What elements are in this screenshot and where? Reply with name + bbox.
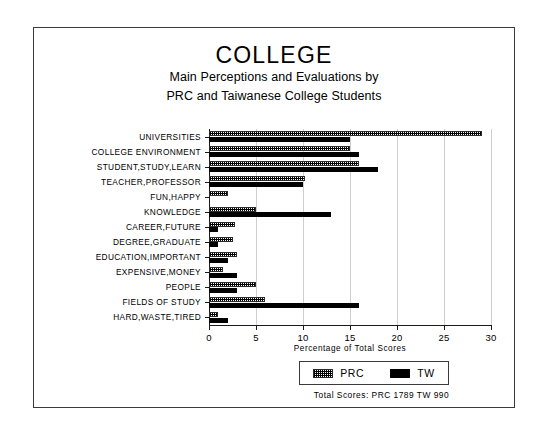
category-label: KNOWLEDGE bbox=[144, 208, 201, 216]
x-axis-tick-label: 15 bbox=[344, 332, 355, 343]
gridline bbox=[491, 129, 492, 325]
bar-tw bbox=[209, 288, 237, 293]
bar-tw bbox=[209, 137, 350, 142]
legend-entry-tw: TW bbox=[390, 367, 435, 379]
category-label: STUDENT,STUDY,LEARN bbox=[97, 163, 201, 171]
x-axis-tick-label: 20 bbox=[391, 332, 402, 343]
plot-area: UNIVERSITIESCOLLEGE ENVIRONMENTSTUDENT,S… bbox=[209, 129, 491, 325]
category-label: FIELDS OF STUDY bbox=[122, 298, 201, 306]
category-label: CAREER,FUTURE bbox=[126, 223, 201, 231]
figure-frame: COLLEGE Main Perceptions and Evaluations… bbox=[33, 27, 515, 408]
category-label: EXPENSIVE,MONEY bbox=[116, 268, 201, 276]
x-axis-tick-label: 25 bbox=[438, 332, 449, 343]
x-axis-tick bbox=[303, 325, 304, 330]
x-axis-tick-label: 5 bbox=[253, 332, 259, 343]
category-label: PEOPLE bbox=[166, 283, 201, 291]
bar-row: DEGREE,GRADUATE bbox=[209, 235, 491, 250]
x-axis-tick bbox=[397, 325, 398, 330]
legend-entry-prc: PRC bbox=[313, 367, 364, 379]
category-label: FUN,HAPPY bbox=[150, 193, 201, 201]
bar-prc bbox=[209, 207, 256, 212]
bar-row: CAREER,FUTURE bbox=[209, 219, 491, 234]
bar-prc bbox=[209, 237, 233, 242]
bar-row: FIELDS OF STUDY bbox=[209, 295, 491, 310]
bar-row: COLLEGE ENVIRONMENT bbox=[209, 144, 491, 159]
bar-prc bbox=[209, 176, 305, 181]
bar-tw bbox=[209, 182, 303, 187]
bar-prc bbox=[209, 267, 223, 272]
y-axis-tick bbox=[205, 197, 209, 198]
x-axis-tick bbox=[444, 325, 445, 330]
bar-prc bbox=[209, 282, 256, 287]
bar-tw bbox=[209, 258, 228, 263]
category-label: EDUCATION,IMPORTANT bbox=[96, 253, 201, 261]
bar-row: FUN,HAPPY bbox=[209, 189, 491, 204]
bar-row: KNOWLEDGE bbox=[209, 204, 491, 219]
page-title: COLLEGE bbox=[34, 43, 514, 67]
category-label: DEGREE,GRADUATE bbox=[113, 238, 201, 246]
bar-prc bbox=[209, 191, 228, 196]
bar-row: TEACHER,PROFESSOR bbox=[209, 174, 491, 189]
subtitle-line-1: Main Perceptions and Evaluations by bbox=[34, 70, 514, 86]
x-axis-tick-label: 10 bbox=[297, 332, 308, 343]
bar-row: PEOPLE bbox=[209, 280, 491, 295]
bar-tw bbox=[209, 167, 378, 172]
title-block: COLLEGE Main Perceptions and Evaluations… bbox=[34, 43, 514, 104]
bar-prc bbox=[209, 161, 359, 166]
category-label: TEACHER,PROFESSOR bbox=[101, 178, 201, 186]
x-axis-tick bbox=[350, 325, 351, 330]
bar-tw bbox=[209, 303, 359, 308]
subtitle-line-2: PRC and Taiwanese College Students bbox=[34, 89, 514, 105]
category-label: UNIVERSITIES bbox=[139, 133, 201, 141]
legend-label-tw: TW bbox=[417, 367, 435, 379]
bar-prc bbox=[209, 312, 218, 317]
bar-row: STUDENT,STUDY,LEARN bbox=[209, 159, 491, 174]
legend-label-prc: PRC bbox=[340, 367, 364, 379]
bar-prc bbox=[209, 131, 482, 136]
x-axis-tick-label: 0 bbox=[206, 332, 212, 343]
bar-tw bbox=[209, 242, 218, 247]
bar-row: UNIVERSITIES bbox=[209, 129, 491, 144]
x-axis-title: Percentage of Total Scores bbox=[209, 344, 491, 353]
bar-row: EDUCATION,IMPORTANT bbox=[209, 250, 491, 265]
bar-tw bbox=[209, 152, 359, 157]
bar-tw bbox=[209, 212, 331, 217]
category-label: HARD,WASTE,TIRED bbox=[113, 313, 201, 321]
totals-annotation: Total Scores: PRC 1789 TW 990 bbox=[299, 390, 464, 400]
bar-rows: UNIVERSITIESCOLLEGE ENVIRONMENTSTUDENT,S… bbox=[209, 129, 491, 325]
x-axis-tick-label: 30 bbox=[485, 332, 496, 343]
bar-prc bbox=[209, 252, 237, 257]
x-axis-tick bbox=[491, 325, 492, 330]
bar-prc bbox=[209, 222, 235, 227]
legend: PRC TW bbox=[299, 361, 449, 385]
legend-swatch-prc-icon bbox=[313, 369, 333, 378]
bar-prc bbox=[209, 146, 350, 151]
bar-tw bbox=[209, 227, 218, 232]
bar-prc bbox=[209, 297, 265, 302]
bar-tw bbox=[209, 273, 237, 278]
x-axis-tick bbox=[209, 325, 210, 330]
bar-row: HARD,WASTE,TIRED bbox=[209, 310, 491, 325]
legend-swatch-tw-icon bbox=[390, 369, 410, 378]
bar-row: EXPENSIVE,MONEY bbox=[209, 265, 491, 280]
x-axis-tick bbox=[256, 325, 257, 330]
category-label: COLLEGE ENVIRONMENT bbox=[92, 148, 201, 156]
bar-tw bbox=[209, 318, 228, 323]
